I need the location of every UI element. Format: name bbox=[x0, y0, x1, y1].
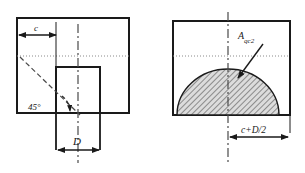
width-dimension-label: c+D/2 bbox=[241, 125, 266, 135]
area-label: Aqc2 bbox=[237, 30, 255, 45]
engineering-diagram: 45° c D Aqc2 bbox=[0, 0, 305, 173]
angle-label: 45° bbox=[28, 102, 41, 112]
c-dimension-label: c bbox=[34, 23, 38, 33]
right-view-group: Aqc2 c+D/2 bbox=[173, 12, 290, 163]
left-inner-rectangle bbox=[56, 67, 100, 113]
left-view-group: 45° c D bbox=[17, 18, 129, 163]
area-label-subscript: qc2 bbox=[244, 37, 255, 45]
diagram-canvas: 45° c D Aqc2 bbox=[0, 0, 305, 173]
d-dimension-label: D bbox=[72, 135, 81, 147]
